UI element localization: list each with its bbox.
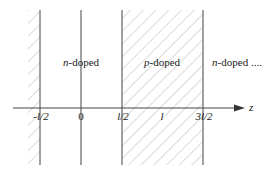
tick-label: l bbox=[160, 110, 163, 122]
region-label-p-doped: p-doped bbox=[143, 56, 181, 68]
hatched-region-p-doped bbox=[122, 10, 203, 165]
tick-label: 3l/2 bbox=[194, 110, 213, 122]
tick-label: 0 bbox=[78, 110, 84, 122]
region-label-n-doped-continued: n-doped .... bbox=[212, 56, 262, 68]
tick-label: l/2 bbox=[117, 110, 129, 122]
arrowhead-icon bbox=[234, 105, 245, 112]
doping-diagram: z -l/2 0 l/2 l 3l/2 n-doped p-doped n-do… bbox=[0, 0, 268, 172]
tick-label: -l/2 bbox=[33, 110, 49, 122]
region-label-n-doped: n-doped bbox=[63, 56, 100, 68]
hatched-region-left bbox=[28, 10, 40, 165]
axis-label-z: z bbox=[248, 101, 254, 113]
